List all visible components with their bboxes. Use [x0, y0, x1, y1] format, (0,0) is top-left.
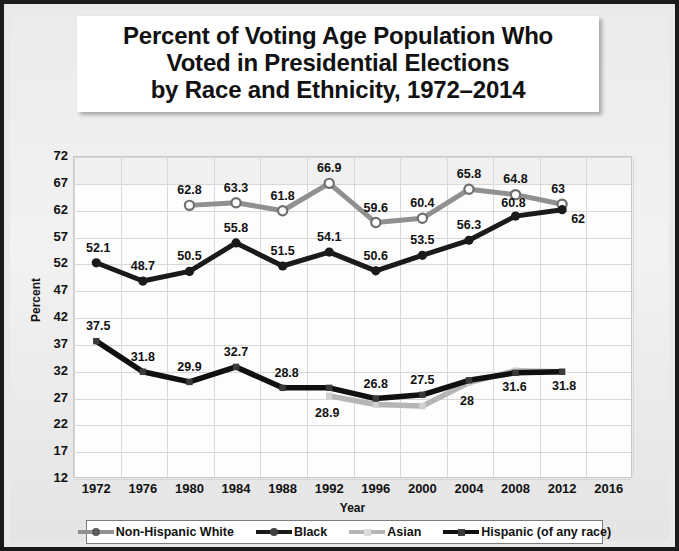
series-point-marker [418, 251, 427, 260]
series-point-marker [279, 385, 285, 391]
series-point-marker [185, 201, 194, 210]
legend-swatch-circle-open-icon [78, 525, 114, 539]
y-axis-title: Percent [29, 260, 43, 340]
y-axis-tick-label: 72 [28, 148, 68, 163]
chart-title-line-3: by Race and Ethnicity, 1972–2014 [81, 76, 595, 103]
series-point-marker [512, 370, 518, 376]
data-point-label: 59.6 [364, 201, 388, 215]
series-point-marker [233, 364, 239, 370]
series-point-marker [93, 338, 99, 344]
data-point-label: 29.9 [177, 360, 201, 374]
x-axis-ticks: 1972197619801984198819921996200020042008… [73, 481, 632, 501]
data-point-label: 55.8 [224, 221, 248, 235]
data-point-label: 27.5 [410, 373, 434, 387]
series-point-marker [418, 214, 427, 223]
series-point-marker [326, 393, 332, 399]
y-axis-tick-label: 22 [28, 416, 68, 431]
series-point-marker [92, 258, 101, 267]
y-axis-tick-label: 67 [28, 175, 68, 190]
series-point-marker [511, 212, 520, 221]
legend-item-label: Asian [387, 525, 421, 539]
y-axis-tick-label: 32 [28, 363, 68, 378]
legend-item[interactable]: Asian [349, 525, 421, 539]
y-axis-tick-label: 62 [28, 202, 68, 217]
chart-legend: Non-Hispanic WhiteBlackAsianHispanic (of… [86, 520, 603, 544]
y-axis-tick-label: 12 [28, 470, 68, 485]
data-point-label: 31.8 [552, 379, 576, 393]
series-point-marker [185, 267, 194, 276]
series-point-marker [231, 198, 240, 207]
chart-title-line-2: Voted in Presidential Elections [81, 49, 595, 76]
data-point-label: 60.4 [410, 196, 434, 210]
legend-item[interactable]: Hispanic (of any race) [443, 525, 611, 539]
x-axis-title: Year [73, 501, 632, 515]
series-point-marker [371, 266, 380, 275]
gridline-horizontal [74, 479, 631, 480]
legend-item-label: Non-Hispanic White [116, 525, 234, 539]
data-point-label: 53.5 [410, 233, 434, 247]
legend-item-label: Black [294, 525, 327, 539]
data-point-label: 62 [571, 212, 585, 226]
series-point-marker [138, 276, 147, 285]
data-point-label: 50.5 [177, 249, 201, 263]
gridline-vertical [633, 157, 634, 477]
series-point-marker [325, 179, 334, 188]
y-axis-tick-label: 27 [28, 390, 68, 405]
series-point-marker [278, 261, 287, 270]
series-point-marker [373, 395, 379, 401]
series-point-marker [186, 379, 192, 385]
data-point-label: 62.8 [177, 183, 201, 197]
chart-root: Percent of Voting Age Population Who Vot… [0, 0, 679, 551]
data-point-label: 52.1 [86, 241, 110, 255]
data-point-label: 50.6 [364, 249, 388, 263]
data-point-label: 28.8 [274, 366, 298, 380]
series-point-marker [325, 247, 334, 256]
data-point-label: 60.8 [501, 196, 525, 210]
y-axis-tick-label: 57 [28, 229, 68, 244]
data-point-label: 56.3 [457, 218, 481, 232]
legend-item-label: Hispanic (of any race) [481, 525, 611, 539]
series-point-marker [373, 401, 379, 407]
data-point-label: 54.1 [317, 230, 341, 244]
series-point-marker [558, 205, 567, 214]
series-point-marker [559, 369, 565, 375]
series-point-marker [419, 392, 425, 398]
legend-swatch-square-icon [443, 525, 479, 539]
data-point-label: 31.6 [502, 380, 526, 394]
series-point-marker [419, 403, 425, 409]
data-point-label: 64.8 [503, 172, 527, 186]
data-point-label: 32.7 [224, 345, 248, 359]
y-axis-tick-label: 17 [28, 443, 68, 458]
legend-item[interactable]: Black [256, 525, 327, 539]
series-point-marker [231, 238, 240, 247]
data-point-label: 28 [460, 394, 474, 408]
series-line [96, 210, 562, 281]
series-point-marker [371, 218, 380, 227]
data-point-label: 31.8 [131, 350, 155, 364]
data-point-label: 66.9 [317, 161, 341, 175]
series-point-marker [140, 369, 146, 375]
data-point-label: 48.7 [131, 259, 155, 273]
legend-item[interactable]: Non-Hispanic White [78, 525, 234, 539]
data-point-label: 28.9 [315, 406, 339, 420]
legend-swatch-square-icon [349, 525, 385, 539]
series-point-marker [326, 385, 332, 391]
data-point-label: 37.5 [86, 319, 110, 333]
series-point-marker [278, 206, 287, 215]
series-layer [73, 156, 632, 478]
x-axis-tick-label: 2016 [579, 481, 639, 496]
legend-swatch-circle-filled-icon [256, 525, 292, 539]
chart-title: Percent of Voting Age Population Who Vot… [77, 16, 599, 112]
data-point-label: 63 [551, 182, 565, 196]
data-point-label: 63.3 [224, 181, 248, 195]
series-point-marker [466, 377, 472, 383]
data-point-label: 61.8 [270, 189, 294, 203]
chart-canvas: Percent of Voting Age Population Who Vot… [10, 10, 669, 541]
data-point-label: 51.5 [270, 244, 294, 258]
series-black [92, 205, 567, 286]
data-point-label: 65.8 [457, 167, 481, 181]
data-point-label: 26.8 [364, 377, 388, 391]
chart-title-line-1: Percent of Voting Age Population Who [81, 22, 595, 49]
series-hispanic-of-any-race [93, 338, 565, 402]
series-point-marker [464, 185, 473, 194]
